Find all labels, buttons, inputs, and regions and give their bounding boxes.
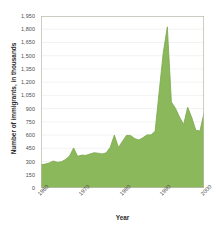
y-axis-tick-labels: 1,9501,8001,6501,5001,3501,2001,05090075… bbox=[0, 16, 38, 188]
y-axis-title: Number of immigrants, in thousands bbox=[10, 19, 17, 179]
plot-area bbox=[41, 16, 204, 188]
y-tick-label: 1,650 bbox=[21, 39, 35, 45]
y-tick-label: 600 bbox=[26, 132, 35, 138]
y-tick-label: 150 bbox=[26, 172, 35, 178]
y-tick-label: 1,950 bbox=[21, 13, 35, 19]
y-tick-label: 1,050 bbox=[21, 92, 35, 98]
x-tick-label: 1960 bbox=[36, 183, 49, 196]
plot-frame bbox=[41, 16, 204, 188]
y-tick-label: 750 bbox=[26, 119, 35, 125]
y-tick-label: 300 bbox=[26, 159, 35, 165]
y-tick-label: 1,350 bbox=[21, 66, 35, 72]
y-tick-label: 1,200 bbox=[21, 79, 35, 85]
y-tick-label: 900 bbox=[26, 106, 35, 112]
immigration-area-chart: 1,9501,8001,6501,5001,3501,2001,05090075… bbox=[0, 0, 216, 236]
x-axis-tick-labels: 19601970198019902000 bbox=[41, 188, 204, 214]
y-tick-label: 0 bbox=[32, 185, 35, 191]
x-axis-title: Year bbox=[41, 214, 204, 221]
y-tick-label: 1,800 bbox=[21, 26, 35, 32]
y-tick-label: 450 bbox=[26, 145, 35, 151]
y-tick-label: 1,500 bbox=[21, 53, 35, 59]
